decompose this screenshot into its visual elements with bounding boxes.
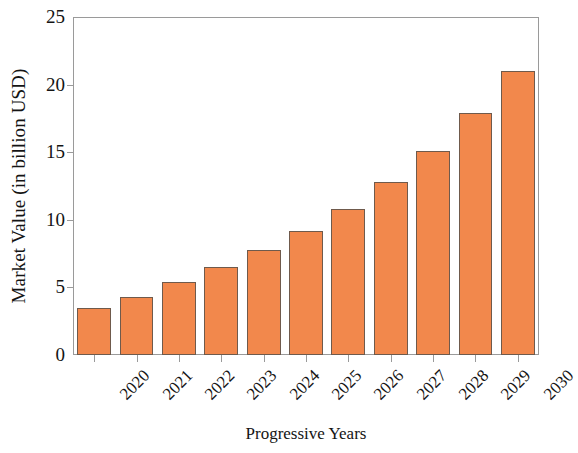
x-tick-label: 2030 [540, 366, 578, 404]
x-tick-mark [391, 355, 392, 362]
y-tick-label: 15 [5, 141, 65, 163]
bar [374, 182, 408, 355]
x-tick-label: 2028 [455, 366, 493, 404]
bar [204, 267, 238, 355]
x-tick-mark [306, 355, 307, 362]
bar [459, 113, 493, 355]
x-tick-label: 2021 [158, 366, 196, 404]
x-tick-mark [94, 355, 95, 362]
x-tick-mark [518, 355, 519, 362]
x-tick-label: 2024 [286, 366, 324, 404]
x-tick-mark [137, 355, 138, 362]
x-tick-label: 2026 [370, 366, 408, 404]
y-tick-mark [67, 152, 74, 153]
x-tick-mark [264, 355, 265, 362]
bar [416, 151, 450, 355]
x-tick-mark [475, 355, 476, 362]
bar [77, 308, 111, 355]
bar [289, 231, 323, 355]
x-tick-mark [221, 355, 222, 362]
x-tick-label: 2023 [243, 366, 281, 404]
x-tick-mark [179, 355, 180, 362]
x-tick-mark [433, 355, 434, 362]
bar [331, 209, 365, 355]
bar [162, 282, 196, 355]
y-tick-mark [67, 85, 74, 86]
y-tick-label: 10 [5, 209, 65, 231]
bar [247, 250, 281, 355]
x-tick-label: 2029 [497, 366, 535, 404]
x-tick-label: 2027 [413, 366, 451, 404]
bar [120, 297, 154, 355]
y-axis-title: Market Value (in billion USD) [4, 6, 34, 366]
y-tick-label: 5 [5, 276, 65, 298]
x-tick-label: 2025 [328, 366, 366, 404]
x-axis-title: Progressive Years [73, 424, 539, 444]
y-tick-mark [67, 287, 74, 288]
y-tick-mark [67, 220, 74, 221]
x-tick-label: 2020 [116, 366, 154, 404]
y-tick-label: 25 [5, 6, 65, 28]
y-tick-label: 20 [5, 74, 65, 96]
bar [501, 71, 535, 355]
x-tick-label: 2022 [201, 366, 239, 404]
y-tick-label: 0 [5, 344, 65, 366]
x-tick-mark [348, 355, 349, 362]
